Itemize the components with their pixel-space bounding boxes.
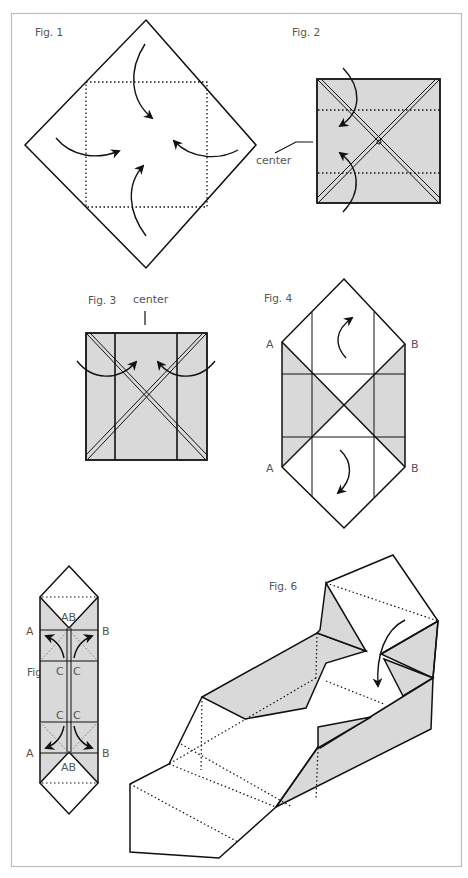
shaded-left-region (282, 342, 312, 467)
point-b-top: B (411, 338, 419, 351)
center-callout-label: center (256, 154, 292, 167)
figure-1-label: Fig. 1 (35, 26, 63, 38)
origami-instructions-diagram: Fig. 1 Fig. 2 center Fig. 3 center (0, 0, 468, 878)
figure-6: Fig. 6 (130, 555, 438, 858)
square-paper-diamond (25, 20, 256, 268)
shaded-right-region (374, 344, 405, 467)
point-b-bottom: B (411, 462, 419, 475)
figure-3-label: Fig. 3 (88, 294, 116, 306)
point-c-lower-right: C (73, 709, 81, 722)
point-ab-bottom: AB (61, 761, 76, 774)
figure-5: Fig. 5 A B A B AB (26, 566, 110, 814)
point-ab-top: AB (61, 611, 76, 624)
center-callout-label: center (133, 293, 169, 306)
figure-1: Fig. 1 (25, 20, 256, 268)
figure-3: Fig. 3 center (77, 293, 215, 460)
figure-4-label: Fig. 4 (264, 292, 293, 304)
point-a-top: A (26, 625, 34, 638)
point-a-bottom: A (266, 462, 274, 475)
center-callout-line (275, 142, 313, 153)
box-outline (130, 697, 318, 858)
fold-arrow-up-icon (338, 318, 352, 358)
point-b-bottom: B (102, 747, 110, 760)
point-c-lower-left: C (56, 709, 64, 722)
shaded-left-center (312, 374, 344, 437)
point-c-upper-right: C (73, 665, 81, 678)
figure-6-label: Fig. 6 (269, 580, 298, 592)
shaded-back-wall (202, 633, 366, 719)
figure-2: Fig. 2 center (256, 26, 440, 212)
fold-arrow-down-icon (338, 450, 350, 493)
figure-2-label: Fig. 2 (292, 26, 320, 38)
point-b-top: B (102, 625, 110, 638)
point-a-top: A (266, 338, 274, 351)
point-c-upper-left: C (56, 665, 64, 678)
shaded-right-center (344, 374, 374, 437)
figure-4: Fig. 4 A B A B (264, 279, 419, 528)
point-a-bottom: A (26, 747, 34, 760)
